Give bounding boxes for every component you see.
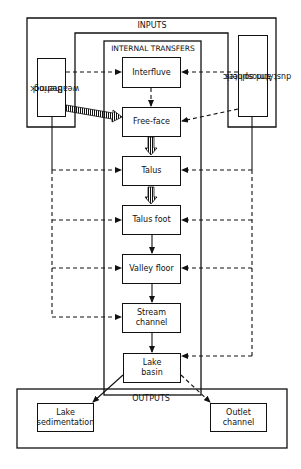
bedrock-line-2: weathering: [34, 83, 79, 93]
atmospheric-dust-label: Atmosphericdust and solutes: [238, 35, 268, 117]
interfluve-node: Interfluve: [122, 57, 181, 88]
talus-foot-node: Talus foot: [122, 205, 181, 235]
lake-basin-node: Lakebasin: [123, 353, 181, 383]
valley-floor-node: Valley floor: [122, 254, 181, 284]
internal-transfers-label: INTERNAL TRANSFERS: [105, 44, 201, 54]
outlet-channel-node: Outletchannel: [210, 403, 267, 432]
arrow-atmos-freeface: [182, 109, 238, 121]
bedrock-weathering-label: Bedrockweathering: [37, 58, 66, 117]
sediment-budget-diagram: INPUTS INTERNAL TRANSFERS OUTPUTS Bedroc…: [0, 0, 301, 469]
outputs-label: OUTPUTS: [125, 394, 177, 404]
stream-channel-node: Streamchannel: [122, 303, 181, 333]
inputs-label: INPUTS: [130, 21, 174, 31]
atmos-line-2: dust and solutes: [225, 71, 291, 81]
free-face-node: Free-face: [122, 107, 181, 137]
lake-sedimentation-node: Lakesedimentation: [37, 403, 94, 432]
hatched-arrow-talus-talusfoot: [145, 187, 157, 204]
talus-node: Talus: [122, 156, 181, 186]
hatched-arrow-freeface-talus: [145, 137, 157, 155]
